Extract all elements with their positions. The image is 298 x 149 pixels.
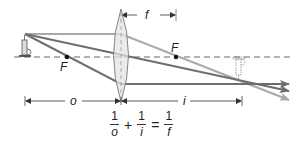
plus-operator: + [124, 117, 132, 133]
focal-point-right [174, 55, 178, 59]
focal-length-bracket [121, 9, 176, 21]
thin-lens-equation: 1 o + 1 i = 1 f [108, 110, 175, 139]
focal-point-left [65, 55, 69, 59]
focal-point-right-label: F [171, 42, 178, 54]
object-candle [19, 35, 31, 57]
focal-point-left-label: F [60, 61, 67, 73]
converging-lens [114, 9, 129, 102]
image-distance-label: i [180, 95, 189, 107]
fraction-image: 1 i [137, 110, 146, 139]
equals-operator: = [151, 117, 159, 133]
object-distance-label: o [67, 95, 80, 107]
fraction-object: 1 o [110, 110, 119, 139]
image-candle [233, 57, 245, 81]
focal-length-label: f [145, 9, 148, 21]
ray-focal [25, 34, 289, 84]
fraction-focal: 1 f [164, 110, 173, 139]
